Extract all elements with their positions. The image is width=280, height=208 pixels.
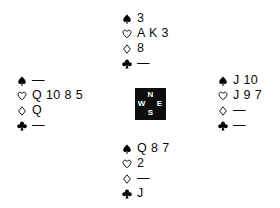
hand-south-hearts: 2 [133, 156, 144, 171]
hand-north-diamonds: 8 [133, 41, 144, 56]
hand-north-spades-row: 3 [122, 11, 169, 26]
hand-west-hearts: Q 10 8 5 [28, 88, 83, 103]
hand-east-clubs-row: — [218, 118, 262, 133]
hand-west: — Q 10 8 5 Q — [17, 73, 83, 133]
hand-east-clubs: — [229, 118, 246, 133]
hand-south-clubs-row: J [122, 186, 170, 201]
heart-icon [17, 88, 28, 103]
hand-west-spades-row: — [17, 73, 83, 88]
hand-south-spades: Q 8 7 [133, 141, 170, 156]
compass-north-label: N [135, 91, 166, 99]
hand-north-hearts-row: A K 3 [122, 26, 169, 41]
hand-east: J 10 J 9 7 — — [218, 73, 262, 133]
spade-icon [17, 73, 28, 88]
hand-east-hearts: J 9 7 [229, 88, 262, 103]
spade-icon [122, 141, 133, 156]
hand-east-diamonds: — [229, 103, 246, 118]
hand-north-clubs: — [133, 56, 150, 71]
club-icon [17, 118, 28, 133]
compass-east-label: E [155, 100, 164, 108]
diamond-icon [218, 103, 229, 118]
compass-box: N W E S [135, 88, 166, 120]
bridge-hand-diagram: 3 A K 3 8 — [0, 0, 280, 208]
hand-west-clubs: — [28, 118, 45, 133]
hand-east-hearts-row: J 9 7 [218, 88, 262, 103]
diamond-icon [122, 171, 133, 186]
hand-south-clubs: J [133, 186, 144, 201]
hand-west-clubs-row: — [17, 118, 83, 133]
hand-east-spades-row: J 10 [218, 73, 262, 88]
hand-north-hearts: A K 3 [133, 26, 169, 41]
diamond-icon [122, 41, 133, 56]
hand-east-diamonds-row: — [218, 103, 262, 118]
spade-icon [122, 11, 133, 26]
heart-icon [122, 156, 133, 171]
club-icon [218, 118, 229, 133]
diamond-icon [17, 103, 28, 118]
hand-south-diamonds: — [133, 171, 150, 186]
hand-north-clubs-row: — [122, 56, 169, 71]
hand-south-diamonds-row: — [122, 171, 170, 186]
hand-south-hearts-row: 2 [122, 156, 170, 171]
hand-south-spades-row: Q 8 7 [122, 141, 170, 156]
hand-north-spades: 3 [133, 11, 144, 26]
compass-west-label: W [137, 100, 146, 108]
hand-west-diamonds: Q [28, 103, 42, 118]
hand-west-spades: — [28, 73, 45, 88]
club-icon [122, 186, 133, 201]
club-icon [122, 56, 133, 71]
hand-west-diamonds-row: Q [17, 103, 83, 118]
hand-north: 3 A K 3 8 — [122, 11, 169, 71]
hand-south: Q 8 7 2 — J [122, 141, 170, 201]
hand-east-spades: J 10 [229, 73, 258, 88]
spade-icon [218, 73, 229, 88]
heart-icon [218, 88, 229, 103]
heart-icon [122, 26, 133, 41]
compass-south-label: S [135, 109, 166, 117]
hand-north-diamonds-row: 8 [122, 41, 169, 56]
hand-west-hearts-row: Q 10 8 5 [17, 88, 83, 103]
